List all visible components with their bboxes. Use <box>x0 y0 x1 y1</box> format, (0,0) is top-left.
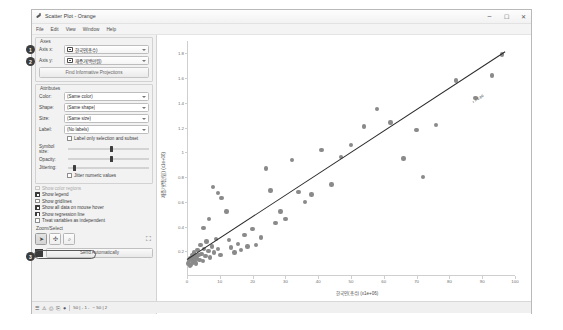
copy-icon[interactable]: ⎙ <box>49 305 53 311</box>
scatter-point[interactable] <box>194 261 198 265</box>
scatter-point[interactable] <box>254 243 258 247</box>
scatter-point[interactable] <box>362 124 366 128</box>
axis-x-combo[interactable]: 한국인(총수) <box>64 45 149 54</box>
show-color-regions-checkbox[interactable] <box>35 186 40 191</box>
jittering-label: Jittering: <box>39 165 65 170</box>
show-all-data-hover-checkbox[interactable] <box>35 205 40 210</box>
axis-y-combo[interactable]: 재증가(백만원) <box>64 56 149 65</box>
x-tick-label: 10 <box>217 279 222 284</box>
zoom-tool[interactable]: ⌕ <box>63 233 75 245</box>
chevron-down-icon <box>142 107 146 109</box>
show-gridlines-checkbox[interactable] <box>35 199 40 204</box>
scatter-point[interactable] <box>229 245 233 249</box>
treat-variables-independent-label: Treat variables as independent <box>42 218 105 223</box>
close-button[interactable]: ✕ <box>519 12 528 21</box>
menu-view[interactable]: View <box>66 27 76 32</box>
scatter-point[interactable] <box>216 191 220 195</box>
scatter-point[interactable] <box>401 156 405 160</box>
scatter-point[interactable] <box>224 209 228 213</box>
scatter-point[interactable] <box>250 227 254 231</box>
scatter-point[interactable] <box>245 244 249 248</box>
scatter-point[interactable] <box>239 248 243 252</box>
opacity-slider[interactable] <box>68 156 149 162</box>
minimize-button[interactable]: – <box>485 12 494 21</box>
show-color-regions-row[interactable]: Show color regions <box>35 186 153 191</box>
reset-zoom-tool[interactable]: ⛶ <box>143 234 153 244</box>
scatter-point[interactable] <box>212 250 216 254</box>
show-regression-line-row[interactable]: Show regression line <box>35 212 153 217</box>
chevron-down-icon <box>142 129 146 131</box>
color-combo[interactable]: (Same color) <box>64 92 149 101</box>
chevron-down-icon <box>142 96 146 98</box>
opacity-knob[interactable] <box>110 156 113 162</box>
menu-window[interactable]: Window <box>83 27 100 32</box>
label-combo[interactable]: (No labels) <box>64 125 149 134</box>
scatter-point[interactable] <box>203 254 207 258</box>
scatter-point[interactable] <box>236 242 240 246</box>
treat-variables-independent-checkbox[interactable] <box>35 218 40 223</box>
scatter-point[interactable] <box>211 185 215 189</box>
scatter-point[interactable] <box>219 196 223 200</box>
scatter-point[interactable] <box>490 73 494 77</box>
record-icon[interactable]: ● <box>63 305 66 311</box>
scatter-point[interactable] <box>309 192 313 196</box>
scatter-point[interactable] <box>434 123 438 127</box>
scatter-point[interactable] <box>264 166 268 170</box>
scatter-point[interactable] <box>242 233 246 237</box>
show-all-data-hover-row[interactable]: Show all data on mouse hover <box>35 205 153 210</box>
scatter-point[interactable] <box>283 217 287 221</box>
menu-edit[interactable]: Edit <box>51 27 59 32</box>
jittering-slider[interactable] <box>68 165 149 171</box>
scatter-point[interactable] <box>207 217 211 221</box>
scatter-point[interactable] <box>216 247 220 251</box>
symbol-size-slider[interactable] <box>68 146 149 152</box>
save-icon[interactable]: ⎘ <box>56 305 60 311</box>
scatter-point[interactable] <box>329 182 333 186</box>
scatter-point[interactable] <box>296 190 300 194</box>
maximize-button[interactable]: ☐ <box>502 12 511 21</box>
scatter-point[interactable] <box>421 175 425 179</box>
label-row: Label: (No labels) <box>39 125 149 134</box>
scatter-point[interactable] <box>227 238 231 242</box>
size-combo[interactable]: (Same size) <box>64 114 149 123</box>
scatter-point[interactable] <box>303 200 307 204</box>
info-icon[interactable]: ⚠ <box>42 305 46 311</box>
show-legend-row[interactable]: Show legend <box>35 192 153 197</box>
jittering-knob[interactable] <box>73 165 76 171</box>
find-informative-projections-button[interactable]: Find Informative Projections <box>39 67 149 78</box>
scatter-point[interactable] <box>259 235 263 239</box>
scatter-point[interactable] <box>232 250 236 254</box>
scatter-point[interactable] <box>319 148 323 152</box>
scatter-point[interactable] <box>290 158 294 162</box>
scatter-point[interactable] <box>375 107 379 111</box>
scatter-point[interactable] <box>349 143 353 147</box>
label-only-selection-checkbox[interactable] <box>67 136 72 141</box>
shape-label: Shape: <box>39 105 61 110</box>
scatter-point[interactable] <box>204 239 208 243</box>
show-legend-checkbox[interactable] <box>35 192 40 197</box>
scatter-point[interactable] <box>414 128 418 132</box>
symbol-size-knob[interactable] <box>110 146 113 152</box>
treat-variables-independent-row[interactable]: Treat variables as independent <box>35 218 153 223</box>
scatter-point[interactable] <box>268 188 272 192</box>
scatter-point[interactable] <box>208 255 212 259</box>
scatter-point[interactable] <box>278 209 282 213</box>
scatter-point[interactable] <box>201 226 205 230</box>
scatter-plot-canvas[interactable]: 재증가(백만원) (x1e+06) 한국인(총수) (x1e+06) 0.20.… <box>157 35 531 314</box>
scatter-point[interactable] <box>201 259 205 263</box>
show-regression-line-checkbox[interactable] <box>35 212 40 217</box>
label-only-selection-row[interactable]: Label only selection and subset <box>67 136 149 141</box>
menu-help[interactable]: Help <box>106 27 116 32</box>
menu-file[interactable]: File <box>36 27 44 32</box>
jitter-numeric-row[interactable]: Jitter numeric values <box>67 173 149 178</box>
pan-tool[interactable]: ✣ <box>49 233 61 245</box>
scatter-point[interactable] <box>206 249 210 253</box>
jitter-numeric-checkbox[interactable] <box>67 173 72 178</box>
scatter-point[interactable] <box>273 221 277 225</box>
select-tool[interactable]: ➤ <box>35 233 47 245</box>
scatter-point[interactable] <box>218 253 222 257</box>
show-gridlines-row[interactable]: Show gridlines <box>35 199 153 204</box>
menu-icon[interactable]: ☰ <box>35 305 39 311</box>
shape-combo[interactable]: (Same shape) <box>64 103 149 112</box>
x-tick-label: 20 <box>250 279 255 284</box>
